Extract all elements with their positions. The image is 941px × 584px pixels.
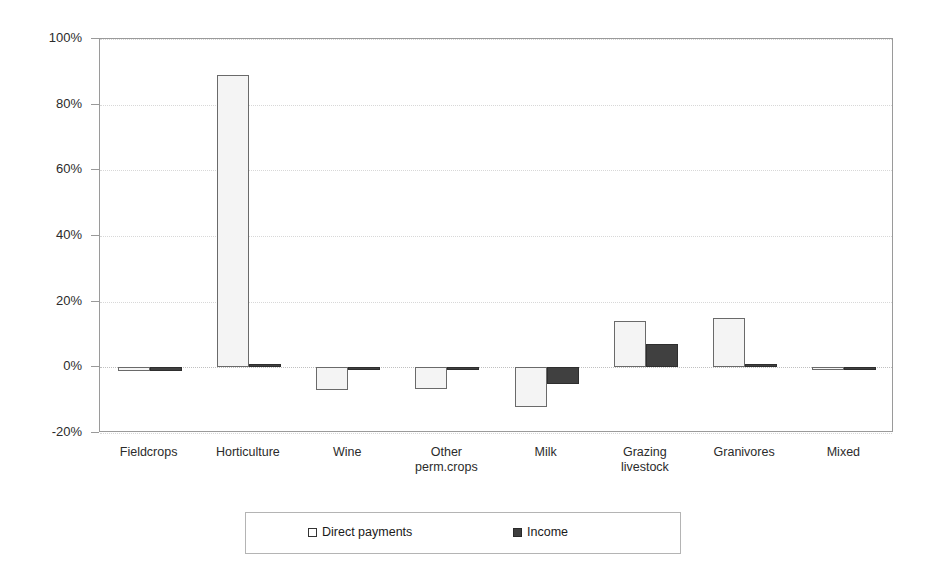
y-axis-tick <box>91 38 99 39</box>
x-axis-category-label: Grazing livestock <box>595 445 694 475</box>
y-axis-label-slot: -20% <box>22 425 82 438</box>
y-axis-label-slot: 20% <box>22 294 82 307</box>
bar-direct-payments <box>713 318 745 367</box>
legend-label: Income <box>527 525 568 539</box>
gridline <box>100 433 892 434</box>
gridline <box>100 39 892 40</box>
y-axis-tick-label: 80% <box>22 97 82 110</box>
bar-direct-payments <box>812 367 844 370</box>
bar-income <box>547 367 579 383</box>
x-axis-category-label: Milk <box>496 445 595 460</box>
bar-direct-payments <box>217 75 249 367</box>
y-axis-label-slot: 100% <box>22 31 82 44</box>
y-axis-tick-label: 40% <box>22 228 82 241</box>
y-axis-tick <box>91 104 99 105</box>
y-axis-label-slot: 60% <box>22 162 82 175</box>
y-axis-tick <box>91 366 99 367</box>
bar-income <box>150 367 182 370</box>
light-square-swatch-icon <box>308 528 317 537</box>
bar-direct-payments <box>614 321 646 367</box>
y-axis-tick-label: 20% <box>22 294 82 307</box>
dark-square-swatch-icon <box>513 528 522 537</box>
bar-direct-payments <box>415 367 447 388</box>
bar-direct-payments <box>515 367 547 406</box>
legend-item-direct-payments: Direct payments <box>308 525 412 539</box>
y-axis-tick <box>91 432 99 433</box>
y-axis-tick-label: 100% <box>22 31 82 44</box>
legend-item-income: Income <box>513 525 568 539</box>
x-axis-category-label: Horticulture <box>198 445 297 460</box>
bar-income <box>745 364 777 367</box>
bar-income <box>844 367 876 370</box>
legend-label: Direct payments <box>322 525 412 539</box>
grouped-bar-chart: 100%80%60%40%20%0%-20% FieldcropsHorticu… <box>0 0 941 584</box>
y-axis-tick-label: -20% <box>22 425 82 438</box>
y-axis-label-slot: 80% <box>22 97 82 110</box>
x-axis-category-label: Wine <box>298 445 397 460</box>
bar-income <box>348 367 380 370</box>
bar-income <box>249 364 281 367</box>
bar-direct-payments <box>118 367 150 371</box>
bar-income <box>646 344 678 367</box>
bar-income <box>447 367 479 370</box>
x-axis-category-label: Mixed <box>794 445 893 460</box>
x-axis-category-label: Other perm.crops <box>397 445 496 475</box>
bar-direct-payments <box>316 367 348 390</box>
y-axis-line <box>99 38 100 432</box>
plot-area <box>99 38 893 432</box>
x-axis-category-label: Fieldcrops <box>99 445 198 460</box>
y-axis-tick-label: 60% <box>22 162 82 175</box>
y-axis-label-slot: 0% <box>22 359 82 372</box>
x-axis-category-label: Granivores <box>695 445 794 460</box>
y-axis-label-slot: 40% <box>22 228 82 241</box>
y-axis-tick <box>91 301 99 302</box>
y-axis-tick <box>91 235 99 236</box>
gridline <box>100 367 892 368</box>
y-axis-tick <box>91 169 99 170</box>
chart-legend: Direct payments Income <box>245 512 681 554</box>
y-axis-tick-label: 0% <box>22 359 82 372</box>
